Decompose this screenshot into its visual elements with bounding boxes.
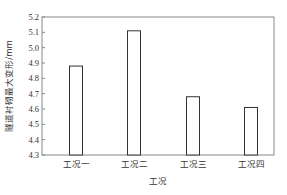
bar [128,31,141,155]
y-tick-label: 5.2 [28,12,39,22]
y-tick-label: 4.4 [28,135,39,145]
bar [187,97,200,155]
y-axis-title: 隧道衬砌最大变形/mm [4,40,14,131]
y-tick-label: 5.0 [28,43,39,53]
y-tick-label: 4.6 [28,104,39,114]
x-category-label: 工况三 [180,159,207,169]
y-tick-label: 4.3 [28,150,39,160]
x-category-label: 工况四 [238,159,265,169]
y-tick-label: 4.7 [28,89,39,99]
x-category-label: 工况一 [63,159,90,169]
x-axis-labels: 工况一工况二工况三工况四 [63,159,265,169]
bar [245,107,258,155]
x-axis-title: 工况 [149,176,167,186]
y-tick-label: 5.1 [28,27,39,37]
y-tick-label: 4.5 [28,119,39,129]
bar [70,66,83,155]
y-tick-label: 4.9 [28,58,39,68]
x-category-label: 工况二 [121,159,148,169]
bar-chart: 4.34.44.54.64.74.84.95.05.15.2 工况一工况二工况三… [0,0,287,195]
y-tick-label: 4.8 [28,73,39,83]
